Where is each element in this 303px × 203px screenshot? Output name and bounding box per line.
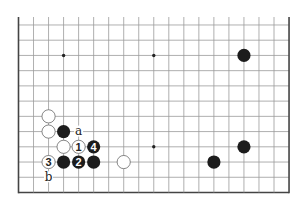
white-stone <box>42 125 55 138</box>
black-stone <box>237 49 250 62</box>
go-board: 1432 ab <box>0 0 303 203</box>
star-point <box>152 145 155 148</box>
move-number-label: 3 <box>45 156 51 168</box>
mark-a: a <box>74 124 83 138</box>
move-number-label: 4 <box>91 141 98 153</box>
white-stone <box>57 140 70 153</box>
black-stone <box>237 140 250 153</box>
star-point <box>152 54 155 57</box>
black-stone <box>57 125 70 138</box>
move-number-label: 2 <box>76 156 82 168</box>
star-point <box>62 54 65 57</box>
black-stone <box>57 155 70 168</box>
mark-label: a <box>75 124 82 138</box>
black-stone: 4 <box>87 140 100 153</box>
white-stone <box>117 155 130 168</box>
mark-b: b <box>44 170 53 184</box>
black-stone: 2 <box>72 155 85 168</box>
white-stone: 3 <box>42 155 55 168</box>
mark-label: b <box>45 170 53 184</box>
white-stone: 1 <box>72 140 85 153</box>
stones-layer: 1432 <box>42 49 251 169</box>
white-stone <box>42 110 55 123</box>
black-stone <box>87 155 100 168</box>
black-stone <box>207 155 220 168</box>
move-number-label: 1 <box>76 141 82 153</box>
